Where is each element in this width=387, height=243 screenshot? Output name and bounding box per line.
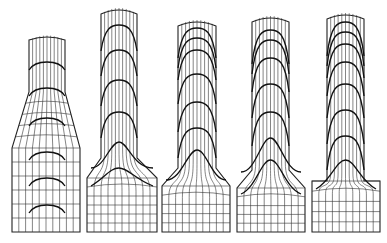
flow-line (26, 37, 37, 232)
flow-line (108, 9, 112, 232)
flow-line (201, 20, 203, 232)
flow-line (126, 9, 136, 232)
deformation-front (166, 150, 226, 180)
mesh-stage-3 (162, 20, 230, 232)
mesh-stage-4 (237, 16, 305, 232)
flow-line (257, 17, 263, 232)
flow-line (94, 12, 105, 232)
mesh-diagram-canvas (0, 0, 387, 243)
mesh-stage-1 (12, 36, 80, 233)
flow-line (196, 20, 197, 232)
flow-line (130, 10, 143, 232)
flow-line (271, 16, 272, 232)
mesh-deformation-figure (0, 0, 387, 243)
flow-line (360, 17, 373, 232)
flow-line (119, 8, 122, 232)
flow-line (339, 13, 342, 232)
flow-line (46, 36, 47, 233)
deformation-front (29, 118, 65, 126)
flow-line (54, 36, 59, 232)
flow-line (346, 13, 347, 232)
flow-line (274, 16, 278, 232)
flow-line (357, 15, 367, 232)
mesh-stage-5 (312, 13, 380, 232)
flow-line (319, 17, 331, 232)
deformation-front (241, 138, 301, 172)
flow-line (264, 16, 267, 232)
flow-line (123, 8, 129, 232)
flow-line (51, 36, 53, 232)
mesh-stage-2 (87, 8, 157, 232)
